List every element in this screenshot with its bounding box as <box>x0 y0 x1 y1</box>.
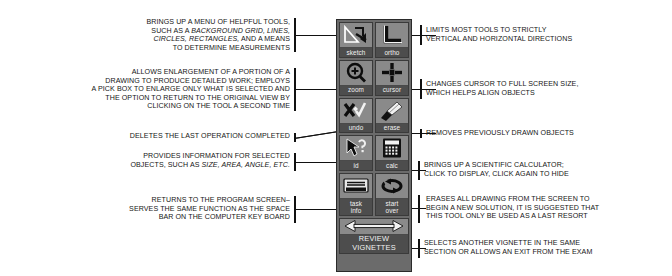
tool-label: undo <box>340 124 372 133</box>
callout-text-sketch: BRINGS UP A MENU OF HELPFUL TOOLS,SUCH A… <box>44 18 290 52</box>
annotated-toolbar-diagram: BRINGS UP A MENU OF HELPFUL TOOLS,SUCH A… <box>0 0 672 276</box>
callout-text-id: PROVIDES INFORMATION FOR SELECTEDOBJECTS… <box>38 152 290 169</box>
palette-row-5: task info start over <box>339 173 409 216</box>
callout-text-start-over: ERASES ALL DRAWING FROM THE SCREEN TOBEG… <box>426 195 666 221</box>
bracket-ortho <box>420 25 422 45</box>
callout-line: SELECTS ANOTHER VIGNETTE IN THE SAME <box>424 239 664 248</box>
double-arrow-icon <box>340 219 408 235</box>
tool-review-vignettes[interactable]: REVIEW VIGNETTES <box>339 218 409 254</box>
eraser-icon <box>376 99 408 124</box>
callout-line: ERASES ALL DRAWING FROM THE SCREEN TO <box>426 195 666 204</box>
callout-line: WHICH HELPS ALIGN OBJECTS <box>426 89 664 98</box>
task-info-document-icon <box>340 174 372 199</box>
callout-line: PROVIDES INFORMATION FOR SELECTED <box>38 152 290 161</box>
palette-row-6: REVIEW VIGNETTES <box>339 218 409 254</box>
tool-label: calc <box>376 161 408 170</box>
callout-line: VERTICAL AND HORIZONTAL DIRECTIONS <box>426 35 664 44</box>
palette-row-3: undo erase <box>339 98 409 134</box>
callout-line: CLICKING ON THE TOOL A SECOND TIME <box>12 102 290 111</box>
callout-line: A PICK BOX TO ENLARGE ONLY WHAT IS SELEC… <box>12 85 290 94</box>
callout-line: REMOVES PREVIOUSLY DRAWN OBJECTS <box>426 129 664 138</box>
callout-text-ortho: LIMITS MOST TOOLS TO STRICTLYVERTICAL AN… <box>426 26 664 43</box>
callout-line: SECTION OR ALLOWS AN EXIT FROM THE EXAM <box>424 248 664 257</box>
ortho-angle-icon <box>376 23 408 48</box>
palette-row-4: id <box>339 135 409 171</box>
callout-line: BAR ON THE COMPUTER KEY BOARD <box>38 213 290 222</box>
leader-task <box>294 209 336 210</box>
tool-zoom[interactable]: zoom <box>339 60 373 96</box>
callout-line: SERVES THE SAME FUNCTION AS THE SPACE <box>38 205 290 214</box>
leader-zoom <box>294 89 336 90</box>
tool-calc[interactable]: calc <box>375 135 409 171</box>
bracket-cursor <box>420 79 422 99</box>
callout-line: DELETES THE LAST OPERATION COMPLETED <box>38 132 290 141</box>
drawing-tool-palette[interactable]: sketch ortho <box>336 19 412 272</box>
tool-label: REVIEW VIGNETTES <box>340 235 408 253</box>
callout-text-erase: REMOVES PREVIOUSLY DRAWN OBJECTS <box>426 129 664 138</box>
palette-row-2: zoom cursor <box>339 60 409 96</box>
tool-sketch[interactable]: sketch <box>339 22 373 58</box>
tool-label: id <box>340 161 372 170</box>
callout-line: BRINGS UP A MENU OF HELPFUL TOOLS, <box>44 18 290 27</box>
tool-label: sketch <box>340 48 372 57</box>
callout-line: LIMITS MOST TOOLS TO STRICTLY <box>426 26 664 35</box>
callout-line: BEGIN A NEW SOLUTION, IT IS SUGGESTED TH… <box>426 204 666 213</box>
callout-line: OBJECTS, SUCH AS SIZE, AREA, ANGLE, ETC. <box>38 161 290 170</box>
callout-line: CHANGES CURSOR TO FULL SCREEN SIZE, <box>426 80 664 89</box>
bracket-start-over <box>418 195 420 223</box>
tool-label: cursor <box>376 86 408 95</box>
arrow-question-icon <box>340 136 372 161</box>
tool-erase[interactable]: erase <box>375 98 409 134</box>
tool-start-over[interactable]: start over <box>375 173 409 216</box>
bracket-review <box>418 239 420 258</box>
tool-label: erase <box>376 124 408 133</box>
callout-text-undo: DELETES THE LAST OPERATION COMPLETED <box>38 132 290 141</box>
callout-text-cursor: CHANGES CURSOR TO FULL SCREEN SIZE,WHICH… <box>426 80 664 97</box>
callout-text-review: SELECTS ANOTHER VIGNETTE IN THE SAMESECT… <box>424 239 664 256</box>
magnifier-plus-icon <box>340 61 372 86</box>
callout-text-task: RETURNS TO THE PROGRAM SCREEN–SERVES THE… <box>38 196 290 222</box>
bracket-calc <box>418 161 420 180</box>
tool-label: zoom <box>340 86 372 95</box>
callout-text-zoom: ALLOWS ENLARGEMENT OF A PORTION OF ADRAW… <box>12 68 290 111</box>
callout-line: CIRCLES, RECTANGLES, AND A MEANS <box>44 35 290 44</box>
tool-undo[interactable]: undo <box>339 98 373 134</box>
tool-id[interactable]: id <box>339 135 373 171</box>
leader-sketch <box>294 35 336 36</box>
calculator-icon <box>376 136 408 161</box>
callout-line: BRINGS UP A SCIENTIFIC CALCULATOR; <box>424 161 664 170</box>
callout-line: SUCH AS A BACKGROUND GRID, LINES, <box>44 27 290 36</box>
callout-line: DRAWING TO PRODUCE DETAILED WORK; EMPLOY… <box>12 77 290 86</box>
palette-row-1: sketch ortho <box>339 22 409 58</box>
callout-line: THE OPTION TO RETURN TO THE ORIGINAL VIE… <box>12 94 290 103</box>
sketch-arrow-icon <box>340 23 372 48</box>
callout-line: CLICK TO DISPLAY, CLICK AGAIN TO HIDE <box>424 170 664 179</box>
callout-line: TO DETERMINE MEASUREMENTS <box>44 44 290 53</box>
callout-line: ALLOWS ENLARGEMENT OF A PORTION OF A <box>12 68 290 77</box>
tool-ortho[interactable]: ortho <box>375 22 409 58</box>
x-check-undo-icon <box>340 99 372 124</box>
leader-undo <box>294 131 339 139</box>
callout-text-calc: BRINGS UP A SCIENTIFIC CALCULATOR;CLICK … <box>424 161 664 178</box>
callout-line: THIS TOOL ONLY BE USED AS A LAST RESORT <box>426 212 666 221</box>
tool-cursor[interactable]: cursor <box>375 60 409 96</box>
tool-label: ortho <box>376 48 408 57</box>
leader-id <box>294 162 336 163</box>
tool-label: task info <box>340 199 372 215</box>
tool-task-info[interactable]: task info <box>339 173 373 216</box>
circular-arrow-icon <box>376 174 408 199</box>
crosshair-cursor-icon <box>376 61 408 86</box>
tool-label: start over <box>376 199 408 215</box>
callout-line: RETURNS TO THE PROGRAM SCREEN– <box>38 196 290 205</box>
bracket-erase <box>420 129 422 138</box>
